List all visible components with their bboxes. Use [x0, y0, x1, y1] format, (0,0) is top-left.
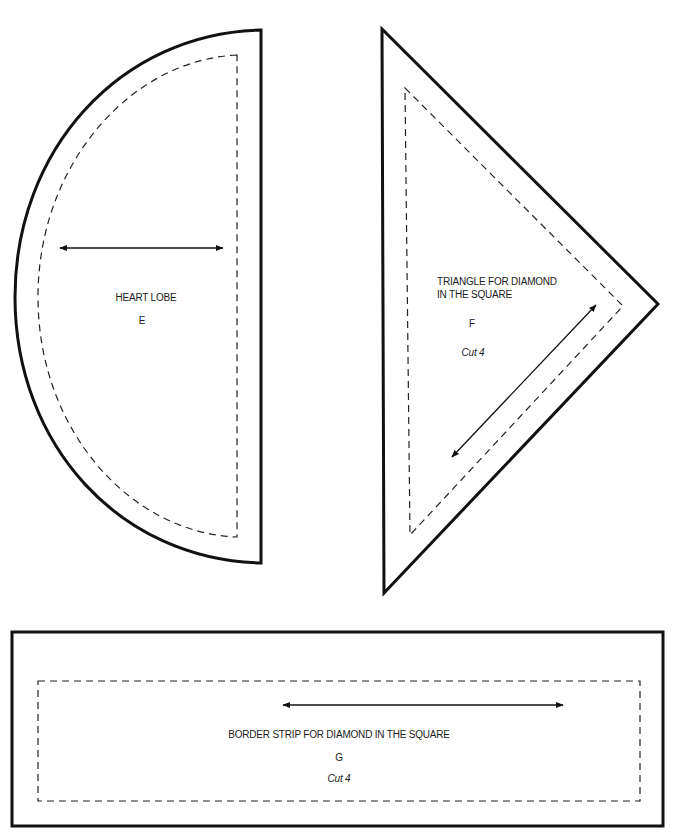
piece-g-cut-count: Cut 4 [328, 773, 351, 784]
piece-f-name-line1: TRIANGLE FOR DIAMOND [437, 276, 557, 287]
piece-g-name: BORDER STRIP FOR DIAMOND IN THE SQUARE [228, 729, 450, 740]
piece-f-triangle [382, 29, 658, 593]
piece-e-name: HEART LOBE [116, 292, 177, 303]
pattern-sheet [0, 0, 674, 838]
cut-line [382, 29, 658, 593]
piece-e-letter: E [139, 315, 145, 326]
piece-f-cut-count: Cut 4 [462, 347, 485, 358]
piece-f-letter: F [469, 318, 475, 329]
piece-f-name-line2: IN THE SQUARE [437, 289, 512, 300]
piece-g-letter: G [335, 752, 343, 763]
